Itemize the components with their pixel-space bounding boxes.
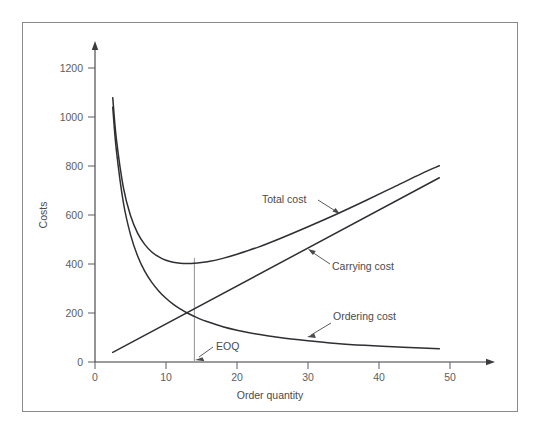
y-tick-label-800: 800: [65, 160, 83, 172]
total-cost-annotation: Total cost: [262, 193, 340, 214]
x-tick-label-10: 10: [160, 371, 172, 383]
x-tick-label-20: 20: [231, 371, 243, 383]
x-tick-label-40: 40: [373, 371, 385, 383]
ordering-cost-leader-line: [311, 323, 331, 335]
carrying-cost-label: Carrying cost: [332, 260, 394, 272]
x-tick-label-30: 30: [302, 371, 314, 383]
eoq-cost-chart: 0 200 400 600 800 1000 1200 Costs 0 10 2…: [0, 0, 535, 432]
ordering-cost-annotation: Ordering cost: [307, 310, 396, 338]
y-axis-title: Costs: [37, 202, 49, 229]
carrying-cost-leader-line: [312, 252, 330, 264]
chart-page: 0 200 400 600 800 1000 1200 Costs 0 10 2…: [0, 0, 535, 432]
ordering-cost-label: Ordering cost: [333, 310, 396, 322]
y-tick-label-400: 400: [65, 258, 83, 270]
x-axis: 0 10 20 30 40 50 Order quantity: [92, 359, 495, 401]
x-tick-label-0: 0: [92, 371, 98, 383]
total-cost-curve: [113, 98, 440, 264]
total-cost-leader-arrow: [332, 208, 340, 214]
x-axis-title: Order quantity: [237, 389, 304, 401]
x-tick-label-50: 50: [444, 371, 456, 383]
y-tick-label-1200: 1200: [60, 62, 84, 74]
x-axis-arrowhead: [486, 359, 495, 365]
total-cost-label: Total cost: [262, 193, 306, 205]
y-axis: 0 200 400 600 800 1000 1200 Costs: [37, 41, 98, 368]
eoq-leader-arrow: [195, 357, 204, 361]
y-tick-label-1000: 1000: [60, 111, 84, 123]
carrying-cost-annotation: Carrying cost: [308, 249, 394, 272]
y-tick-label-0: 0: [77, 356, 83, 368]
eoq-annotation: EOQ: [195, 340, 239, 361]
y-tick-label-600: 600: [65, 209, 83, 221]
y-axis-arrowhead: [92, 41, 98, 50]
eoq-label: EOQ: [216, 340, 239, 352]
y-tick-label-200: 200: [65, 307, 83, 319]
eoq-leader-line: [199, 347, 213, 357]
